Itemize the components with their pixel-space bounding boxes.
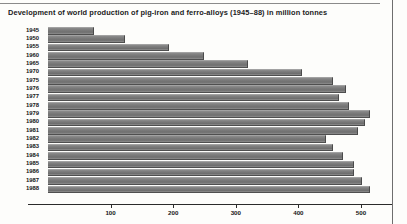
x-axis-tick-label: 100	[105, 209, 115, 217]
bar-year-label: 1970	[26, 67, 46, 75]
x-axis-tick	[298, 204, 299, 208]
bar-row: 1977	[0, 93, 392, 101]
chart-page: Development of world production of pig-i…	[0, 0, 407, 224]
bar-chart-plot: 1945195019551960196519701975197619771978…	[0, 26, 392, 224]
bar-row: 1975	[0, 76, 392, 84]
bar-row: 1981	[0, 126, 392, 134]
x-axis-tick-label: 500	[356, 209, 366, 217]
bar-year-label: 1987	[26, 176, 46, 184]
bar-row: 1982	[0, 134, 392, 142]
x-axis-tick-label: 300	[231, 209, 241, 217]
bar-row: 1986	[0, 168, 392, 176]
bar-year-label: 1950	[26, 34, 46, 42]
bar-row: 1987	[0, 176, 392, 184]
bar-year-label: 1965	[26, 59, 46, 67]
bar-row: 1955	[0, 43, 392, 51]
bar-row: 1979	[0, 109, 392, 117]
bar-row: 1965	[0, 59, 392, 67]
bar-year-label: 1980	[26, 117, 46, 125]
x-axis-tick-label: 200	[168, 209, 178, 217]
x-axis-tick	[236, 204, 237, 208]
bar-row: 1984	[0, 151, 392, 159]
bar-year-label: 1955	[26, 42, 46, 50]
x-axis-tick-label: 400	[293, 209, 303, 217]
bar-year-label: 1983	[26, 142, 46, 150]
bar-year-label: 1986	[26, 167, 46, 175]
bar-year-label: 1960	[26, 51, 46, 59]
bar-row: 1988	[0, 185, 392, 193]
bar-year-label: 1988	[26, 184, 46, 192]
bar-year-label: 1978	[26, 101, 46, 109]
bar-year-label: 1982	[26, 134, 46, 142]
bar-year-label: 1975	[26, 76, 46, 84]
bar-row: 1985	[0, 160, 392, 168]
x-axis-tick	[111, 204, 112, 208]
bar-year-label: 1979	[26, 109, 46, 117]
bar-year-label: 1984	[26, 151, 46, 159]
bar-row: 1978	[0, 101, 392, 109]
bar-row: 1983	[0, 143, 392, 151]
page-title: Development of world production of pig-i…	[8, 8, 380, 17]
bar-year-label: 1985	[26, 159, 46, 167]
x-axis-line	[28, 204, 392, 205]
bar	[48, 186, 370, 194]
bar-rows: 1945195019551960196519701975197619771978…	[0, 26, 392, 202]
bar-year-label: 1981	[26, 126, 46, 134]
bar-row: 1980	[0, 118, 392, 126]
bar-row: 1945	[0, 26, 392, 34]
x-axis-tick	[361, 204, 362, 208]
bar-row: 1960	[0, 51, 392, 59]
top-divider	[0, 3, 380, 4]
bar-year-label: 1976	[26, 84, 46, 92]
bar-year-label: 1977	[26, 92, 46, 100]
bar-row: 1970	[0, 68, 392, 76]
bar-row: 1976	[0, 84, 392, 92]
bar-row: 1950	[0, 34, 392, 42]
bar-year-label: 1945	[26, 26, 46, 34]
right-border	[392, 0, 393, 224]
x-axis-tick	[173, 204, 174, 208]
